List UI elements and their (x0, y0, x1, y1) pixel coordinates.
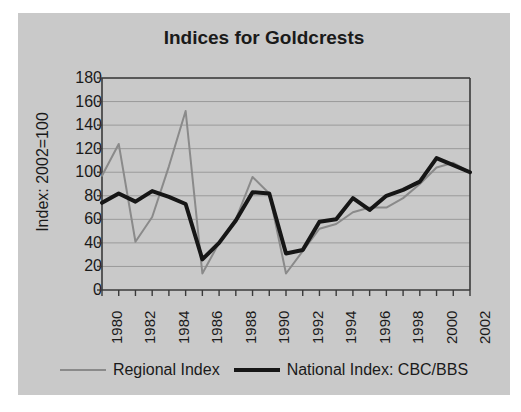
legend-item-regional[interactable]: Regional Index (60, 361, 220, 379)
data-series (102, 111, 470, 274)
plot-area (18, 13, 510, 395)
legend-line-regional-icon (60, 369, 106, 371)
chart-panel: Indices for Goldcrests Index: 2002=100 0… (18, 13, 510, 395)
legend-label-regional: Regional Index (113, 361, 220, 379)
series-line (102, 158, 470, 259)
legend-label-national: National Index: CBC/BBS (287, 361, 468, 379)
gridlines (102, 78, 470, 266)
chart-legend: Regional Index National Index: CBC/BBS (18, 361, 510, 379)
legend-item-national[interactable]: National Index: CBC/BBS (234, 361, 468, 379)
legend-line-national-icon (234, 368, 280, 372)
chart-figure: Indices for Goldcrests Index: 2002=100 0… (0, 0, 521, 412)
